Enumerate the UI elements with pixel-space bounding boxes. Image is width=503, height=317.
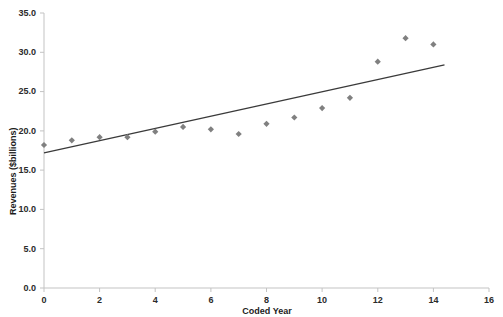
data-point [41,142,47,148]
x-tick-label-4: 4 [139,295,171,305]
x-tick-label-10: 10 [306,295,338,305]
x-axis-ticks [44,288,489,292]
data-point [208,126,214,132]
y-tick-label-15: 15.0 [0,165,36,175]
x-tick-label-6: 6 [195,295,227,305]
x-tick-label-2: 2 [84,295,116,305]
data-point [402,35,408,41]
x-tick-label-12: 12 [362,295,394,305]
data-point [180,124,186,130]
data-point [347,95,353,101]
y-tick-label-20: 20.0 [0,126,36,136]
y-tick-label-0: 0.0 [0,283,36,293]
x-tick-label-0: 0 [28,295,60,305]
y-tick-label-5: 5.0 [0,244,36,254]
trendline [44,65,445,153]
x-tick-label-14: 14 [417,295,449,305]
data-point [263,121,269,127]
y-tick-label-35: 35.0 [0,8,36,18]
scatter-chart: 35.0 30.0 25.0 20.0 15.0 10.0 5.0 0.0 0 … [0,0,503,317]
data-point [375,59,381,65]
y-tick-label-25: 25.0 [0,86,36,96]
data-point [291,114,297,120]
data-point-markers [41,35,437,148]
data-point [319,105,325,111]
y-axis-title: Revenues ($billions) [8,55,18,215]
plot-area [0,0,503,317]
data-point [236,131,242,137]
data-point [97,134,103,140]
y-tick-label-10: 10.0 [0,204,36,214]
x-tick-label-16: 16 [473,295,503,305]
y-axis-ticks [40,13,44,288]
y-tick-label-30: 30.0 [0,47,36,57]
data-point [69,137,75,143]
data-point [430,41,436,47]
x-axis-title: Coded Year [157,306,377,316]
x-tick-label-8: 8 [251,295,283,305]
